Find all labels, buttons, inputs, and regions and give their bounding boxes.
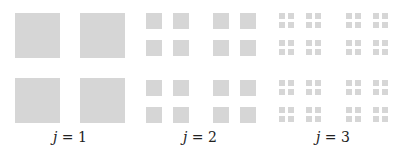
square <box>288 80 294 86</box>
square <box>279 107 285 113</box>
square <box>279 116 285 122</box>
square <box>146 13 162 29</box>
square <box>373 107 379 113</box>
square <box>373 22 379 28</box>
square <box>240 40 256 56</box>
square <box>315 22 321 28</box>
square <box>146 40 162 56</box>
square <box>306 107 312 113</box>
square <box>382 40 388 46</box>
square <box>355 89 361 95</box>
square <box>279 49 285 55</box>
label-j2: j = 2 <box>160 129 240 145</box>
label-equation: = 2 <box>187 129 217 145</box>
square <box>355 116 361 122</box>
square <box>213 107 229 123</box>
square <box>346 22 352 28</box>
square <box>382 22 388 28</box>
square <box>288 40 294 46</box>
square <box>146 80 162 96</box>
square <box>355 22 361 28</box>
square <box>15 13 60 58</box>
square <box>382 80 388 86</box>
square <box>173 40 189 56</box>
square <box>373 116 379 122</box>
square <box>306 80 312 86</box>
square <box>306 13 312 19</box>
square <box>288 49 294 55</box>
square <box>382 107 388 113</box>
square <box>306 49 312 55</box>
square <box>288 107 294 113</box>
square <box>346 80 352 86</box>
square <box>346 40 352 46</box>
square <box>355 49 361 55</box>
label-j3: j = 3 <box>293 129 373 145</box>
square <box>306 22 312 28</box>
square <box>373 49 379 55</box>
square <box>382 116 388 122</box>
square <box>173 107 189 123</box>
square <box>346 89 352 95</box>
square <box>288 89 294 95</box>
square <box>306 40 312 46</box>
square <box>382 13 388 19</box>
square <box>146 107 162 123</box>
square <box>213 80 229 96</box>
square <box>373 40 379 46</box>
square <box>279 80 285 86</box>
square <box>315 107 321 113</box>
square <box>373 89 379 95</box>
square <box>315 116 321 122</box>
square <box>306 89 312 95</box>
square <box>288 22 294 28</box>
square <box>315 80 321 86</box>
square <box>355 40 361 46</box>
square <box>355 107 361 113</box>
square <box>382 49 388 55</box>
square <box>355 80 361 86</box>
square <box>373 80 379 86</box>
cantor-dust-figure: j = 1 j = 2 j = 3 <box>0 0 406 152</box>
square <box>346 13 352 19</box>
square <box>15 78 60 123</box>
label-equation: = 3 <box>320 129 350 145</box>
square <box>373 13 379 19</box>
square <box>346 116 352 122</box>
square <box>213 13 229 29</box>
square <box>315 40 321 46</box>
square <box>279 22 285 28</box>
square <box>173 80 189 96</box>
square <box>240 107 256 123</box>
square <box>382 89 388 95</box>
square <box>288 13 294 19</box>
square <box>279 89 285 95</box>
label-j1: j = 1 <box>30 129 110 145</box>
square <box>355 13 361 19</box>
square <box>279 13 285 19</box>
square <box>240 80 256 96</box>
label-equation: = 1 <box>57 129 87 145</box>
square <box>315 13 321 19</box>
square <box>80 78 125 123</box>
square <box>80 13 125 58</box>
square <box>279 40 285 46</box>
square <box>306 116 312 122</box>
square <box>240 13 256 29</box>
square <box>213 40 229 56</box>
square <box>346 49 352 55</box>
square <box>288 116 294 122</box>
square <box>315 89 321 95</box>
square <box>346 107 352 113</box>
square <box>173 13 189 29</box>
square <box>315 49 321 55</box>
